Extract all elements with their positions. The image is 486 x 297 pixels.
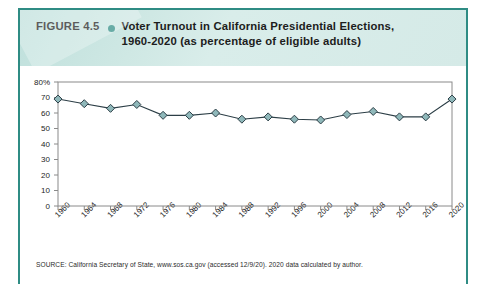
x-axis-tick-label: 1988 — [237, 200, 256, 219]
x-axis-tick-labels: 1960196419681972197619801984198819921996… — [53, 200, 466, 219]
y-axis-tick-label: 0 — [46, 202, 51, 211]
x-axis-tick-label: 2012 — [395, 200, 414, 219]
x-axis-tick-label: 2016 — [421, 200, 440, 219]
x-axis-tick-label: 1960 — [53, 200, 72, 219]
x-axis-tick-label: 2004 — [342, 200, 361, 219]
figure-title-line-1: Voter Turnout in California Presidential… — [122, 20, 395, 32]
x-axis-tick-label: 1992 — [263, 200, 282, 219]
data-point-marker — [54, 95, 62, 103]
y-axis-tick-label: 40 — [41, 140, 50, 149]
data-point-marker — [317, 116, 325, 124]
data-point-marker — [422, 113, 430, 121]
turnout-series-line — [58, 99, 452, 120]
x-axis-tick-label: 2000 — [316, 200, 335, 219]
x-axis-tick-label: 1980 — [184, 200, 203, 219]
data-point-marker — [290, 115, 298, 123]
y-axis-tick-label: 70 — [41, 93, 50, 102]
data-point-marker — [107, 104, 115, 112]
y-axis-tick-label: 20 — [41, 171, 50, 180]
line-chart: 80%706050403020100 196019641968197219761… — [20, 66, 466, 284]
x-axis-tick-label: 2008 — [368, 200, 387, 219]
bullet-dot-icon — [108, 25, 115, 32]
data-point-marker — [80, 100, 88, 108]
x-axis-tick-label: 1972 — [132, 200, 151, 219]
x-axis-tick-label: 1968 — [106, 200, 125, 219]
data-point-marker — [133, 100, 141, 108]
y-axis-tick-label: 10 — [41, 186, 50, 195]
chart-region: 80%706050403020100 196019641968197219761… — [20, 66, 466, 284]
data-point-marker — [264, 113, 272, 121]
figure-frame: FIGURE 4.5 Voter Turnout in California P… — [18, 8, 468, 284]
data-point-marker — [212, 109, 220, 117]
y-axis-tick-labels: 80%706050403020100 — [34, 78, 51, 211]
y-axis-tick-label: 30 — [41, 155, 50, 164]
figure-number-label: FIGURE 4.5 — [36, 19, 100, 34]
data-point-marker — [159, 111, 167, 119]
y-axis-tick-label: 50 — [41, 124, 50, 133]
x-axis-tick-label: 2020 — [447, 200, 466, 219]
plot-area-frame — [58, 82, 452, 206]
source-note: SOURCE: California Secretary of State, w… — [36, 261, 363, 268]
figure-header: FIGURE 4.5 Voter Turnout in California P… — [20, 10, 466, 66]
data-point-marker — [369, 107, 377, 115]
x-axis-tick-label: 1976 — [158, 200, 177, 219]
figure-title-line-2: 1960-2020 (as percentage of eligible adu… — [122, 34, 395, 49]
turnout-series-markers — [54, 95, 456, 124]
x-axis-tick-label: 1964 — [79, 200, 98, 219]
data-point-marker — [343, 111, 351, 119]
data-point-marker — [395, 113, 403, 121]
x-axis-tick-label: 1996 — [289, 200, 308, 219]
x-axis-tick-label: 1984 — [211, 200, 230, 219]
y-axis-tick-label: 60 — [41, 109, 50, 118]
y-axis-tick-label: 80% — [34, 78, 50, 87]
data-point-marker — [448, 95, 456, 103]
data-point-marker — [238, 115, 246, 123]
figure-title-row: FIGURE 4.5 Voter Turnout in California P… — [36, 19, 450, 49]
figure-title: Voter Turnout in California Presidential… — [122, 19, 395, 49]
data-point-marker — [185, 111, 193, 119]
